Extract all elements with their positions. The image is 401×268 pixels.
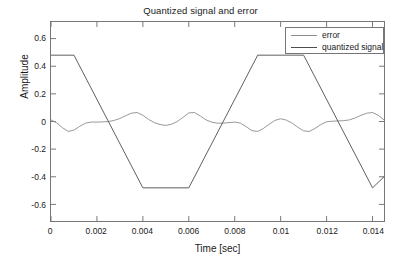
legend-item-error: error <box>289 29 340 41</box>
y-tick-label: -0.6 <box>0 200 46 210</box>
x-tick-label: 0.01 <box>273 226 290 236</box>
x-tick-label: 0.012 <box>317 226 338 236</box>
legend: error quantized signal <box>285 27 384 54</box>
legend-swatch-error <box>291 35 317 36</box>
y-tick-label: 0.6 <box>0 33 46 43</box>
x-axis-label: Time [sec] <box>50 243 385 254</box>
x-tick-label: 0.002 <box>86 226 107 236</box>
legend-label-error: error <box>322 30 340 40</box>
y-tick-label: 0.2 <box>0 89 46 99</box>
x-tick-label: 0.014 <box>363 226 384 236</box>
y-tick-label: -0.2 <box>0 144 46 154</box>
legend-swatch-quantized-signal <box>291 47 317 48</box>
chart-figure: Quantized signal and error Amplitude 0.6… <box>0 0 401 268</box>
chart-title: Quantized signal and error <box>0 5 401 16</box>
series-error <box>51 113 384 132</box>
x-tick-label: 0.006 <box>178 226 199 236</box>
series-lines <box>51 55 384 188</box>
y-tick-label: 0.4 <box>0 61 46 71</box>
x-tick-label: 0.004 <box>132 226 153 236</box>
x-tick-label: 0.008 <box>224 226 245 236</box>
y-tick-label: -0.4 <box>0 172 46 182</box>
legend-label-quantized-signal: quantized signal <box>322 42 383 52</box>
x-tick-label: 0 <box>48 226 53 236</box>
legend-item-quantized-signal: quantized signal <box>289 41 383 53</box>
y-tick-label: 0 <box>0 117 46 127</box>
